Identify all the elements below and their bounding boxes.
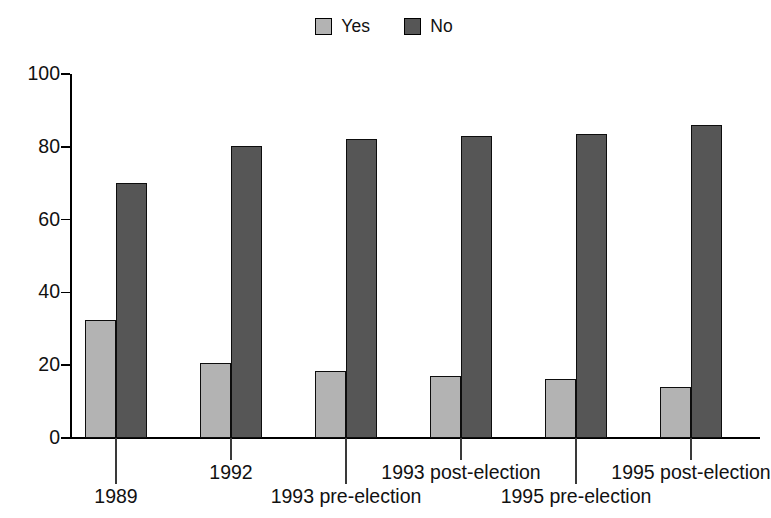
bar-yes-1	[200, 363, 231, 438]
legend-swatch-icon	[404, 18, 421, 35]
y-tick-label: 20	[8, 355, 60, 374]
x-tick-mark	[575, 438, 577, 484]
y-tick-label: 40	[8, 282, 60, 301]
bar-yes-0	[85, 320, 116, 438]
y-axis-line	[70, 74, 72, 438]
x-tick-mark	[115, 438, 117, 484]
bar-no-4	[576, 134, 607, 438]
bar-no-3	[461, 136, 492, 438]
y-tick-label: 0	[8, 428, 60, 447]
x-tick-label: 1995 pre-election	[501, 486, 652, 507]
y-tick-label: 100	[8, 64, 60, 83]
bar-no-1	[231, 146, 262, 438]
x-tick-label: 1992	[209, 462, 252, 483]
x-axis-line	[70, 437, 760, 439]
bar-no-0	[116, 183, 147, 438]
y-tick-mark	[61, 364, 70, 366]
y-tick-mark	[61, 437, 70, 439]
bar-no-5	[691, 125, 722, 438]
chart-legend: Yes No	[0, 18, 768, 35]
x-tick-mark	[690, 438, 692, 460]
y-tick-label: 80	[8, 137, 60, 156]
x-tick-label: 1993 post-election	[381, 462, 540, 483]
bar-no-2	[346, 139, 377, 438]
y-tick-mark	[61, 73, 70, 75]
bar-yes-3	[430, 376, 461, 438]
legend-swatch-icon	[315, 18, 332, 35]
bar-yes-4	[545, 379, 576, 438]
x-tick-label: 1995 post-election	[611, 462, 770, 483]
legend-item-no[interactable]: No	[404, 18, 453, 35]
x-tick-label: 1993 pre-election	[271, 486, 422, 507]
bar-yes-5	[660, 387, 691, 438]
x-tick-mark	[345, 438, 347, 484]
legend-label-no: No	[430, 18, 453, 35]
x-tick-mark	[460, 438, 462, 460]
plot-area: 100806040200	[70, 74, 760, 438]
x-tick-mark	[230, 438, 232, 460]
y-tick-mark	[61, 219, 70, 221]
x-tick-label: 1989	[94, 486, 137, 507]
bar-yes-2	[315, 371, 346, 438]
y-tick-mark	[61, 146, 70, 148]
y-tick-mark	[61, 292, 70, 294]
y-tick-label: 60	[8, 210, 60, 229]
legend-item-yes[interactable]: Yes	[315, 18, 370, 35]
legend-label-yes: Yes	[341, 18, 370, 35]
